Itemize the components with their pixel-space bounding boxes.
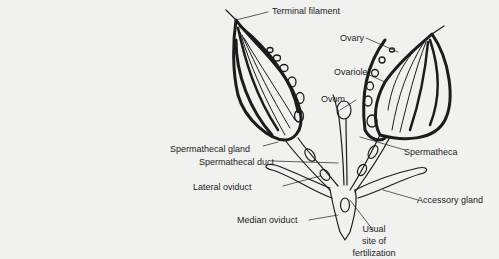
label-fertilization-line3: fertilization [349,248,399,258]
label-ovariole: Ovariole [334,67,368,77]
label-terminal-filament: Terminal filament [272,6,340,16]
label-spermathecal-gland: Spermathecal gland [170,144,250,154]
label-spermathecal-duct: Spermathecal duct [199,157,274,167]
label-median-oviduct: Median oviduct [237,215,298,225]
label-fertilization-line1: Usual [349,224,399,234]
label-ovum: Ovum [321,94,345,104]
label-spermatheca: Spermatheca [404,147,458,157]
label-fertilization-site: Usual site of fertilization [349,224,399,258]
label-lateral-oviduct: Lateral oviduct [193,182,252,192]
label-accessory-gland: Accessory gland [417,195,483,205]
leader-lines [236,12,418,230]
left-ovary-drawing [226,10,304,140]
label-ovary: Ovary [340,33,364,43]
right-ovary-drawing [364,26,450,140]
label-fertilization-line2: site of [349,236,399,246]
